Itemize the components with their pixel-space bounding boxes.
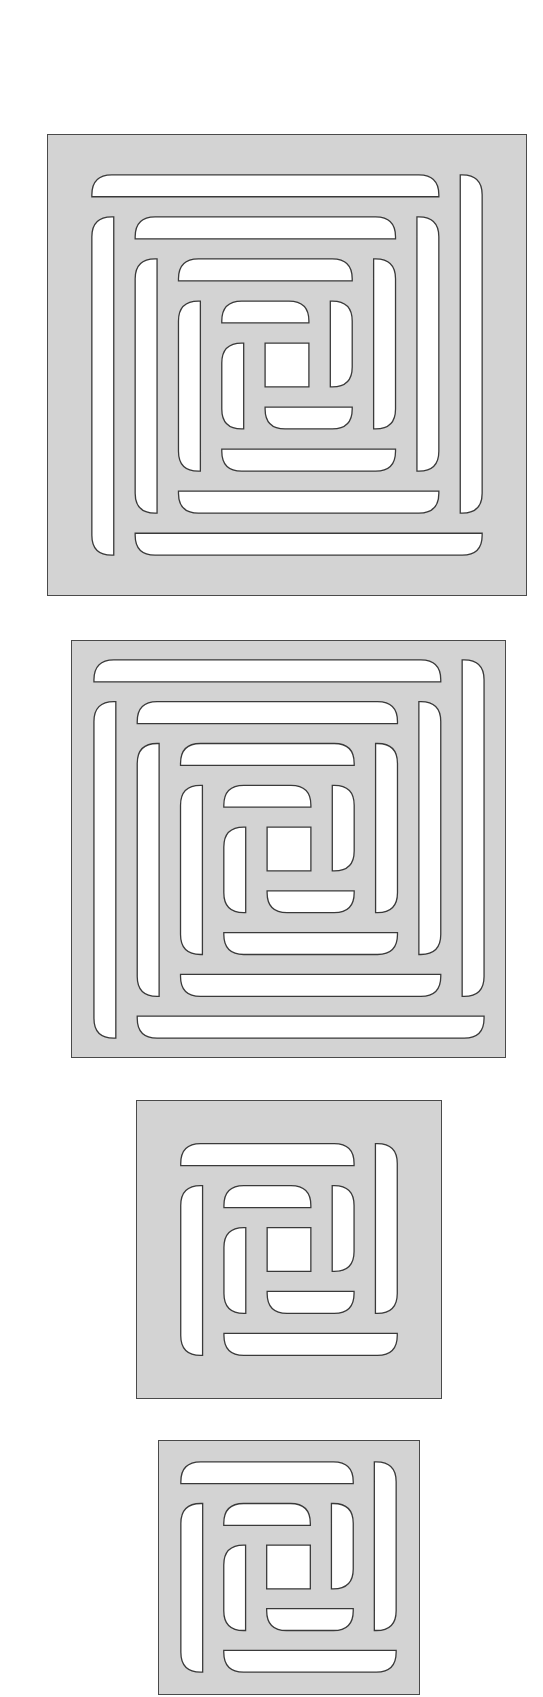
- slot-bottom-ring-3: [224, 933, 398, 955]
- slot-center-square: [267, 827, 311, 871]
- slot-bottom-ring-1: [137, 1016, 484, 1038]
- slot-top-ring-2: [224, 1504, 311, 1526]
- panel-1: [47, 134, 527, 596]
- slot-center-square: [267, 1545, 311, 1589]
- slot-top-ring-1: [94, 660, 441, 682]
- slot-left-ring-3: [178, 301, 200, 471]
- slot-left-ring-2: [224, 1228, 246, 1314]
- slot-left-ring-1: [181, 1504, 203, 1673]
- slot-top-ring-2: [224, 1186, 311, 1208]
- slot-right-ring-1: [460, 175, 482, 513]
- slot-top-ring-2: [135, 217, 395, 239]
- slot-left-ring-3: [181, 785, 203, 954]
- slot-left-ring-1: [181, 1186, 203, 1356]
- slot-left-ring-1: [92, 217, 114, 555]
- slot-bottom-ring-3: [222, 449, 396, 471]
- slot-bottom-ring-1: [224, 1650, 396, 1672]
- slot-bottom-ring-2: [267, 1291, 354, 1313]
- slot-right-ring-3: [376, 744, 398, 913]
- slot-left-ring-4: [222, 343, 244, 429]
- panel-3: [136, 1100, 442, 1399]
- slot-center-square: [267, 1228, 311, 1272]
- slot-bottom-ring-4: [267, 891, 354, 913]
- slot-bottom-ring-2: [178, 491, 438, 513]
- slot-right-ring-2: [419, 702, 441, 955]
- slot-bottom-ring-2: [181, 974, 441, 996]
- slot-right-ring-2: [417, 217, 439, 471]
- slot-top-ring-3: [181, 744, 355, 766]
- slot-right-ring-3: [374, 259, 396, 429]
- slot-right-ring-1: [375, 1144, 397, 1314]
- grille-pattern: [72, 641, 505, 1057]
- grille-pattern: [48, 135, 526, 595]
- slot-top-ring-2: [137, 702, 397, 724]
- slot-top-ring-4: [222, 301, 309, 323]
- slot-left-ring-2: [224, 1545, 246, 1630]
- slot-center-square: [265, 343, 309, 387]
- slot-top-ring-1: [181, 1462, 353, 1484]
- slot-bottom-ring-4: [265, 407, 352, 429]
- slot-top-ring-3: [178, 259, 352, 281]
- slot-bottom-ring-1: [224, 1333, 397, 1355]
- slot-right-ring-2: [331, 1504, 353, 1589]
- grille-pattern: [137, 1101, 441, 1398]
- slot-right-ring-2: [332, 1186, 354, 1272]
- slot-top-ring-1: [181, 1144, 354, 1166]
- slot-right-ring-4: [332, 785, 354, 871]
- panel-4: [158, 1440, 420, 1695]
- slot-left-ring-2: [135, 259, 157, 513]
- slot-right-ring-4: [330, 301, 352, 387]
- slot-left-ring-4: [224, 827, 246, 913]
- slot-left-ring-2: [137, 744, 159, 997]
- slot-right-ring-1: [462, 660, 484, 996]
- slot-top-ring-1: [92, 175, 439, 197]
- slot-bottom-ring-2: [267, 1609, 354, 1631]
- panel-2: [71, 640, 506, 1058]
- slot-bottom-ring-1: [135, 533, 482, 555]
- slot-top-ring-4: [224, 785, 311, 807]
- grille-pattern: [159, 1441, 419, 1694]
- slot-left-ring-1: [94, 702, 116, 1038]
- slot-right-ring-1: [374, 1462, 396, 1631]
